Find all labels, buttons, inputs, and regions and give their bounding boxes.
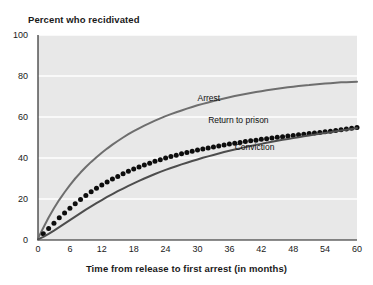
data-point xyxy=(46,226,51,231)
data-point xyxy=(94,186,99,191)
y-tick-label: 20 xyxy=(2,195,28,204)
y-tick-label: 60 xyxy=(2,113,28,122)
data-point xyxy=(184,150,189,155)
data-point xyxy=(73,201,78,206)
data-point xyxy=(195,148,200,153)
series-label-arrest: Arrest xyxy=(198,94,221,103)
data-point xyxy=(137,165,142,170)
x-tick-label: 6 xyxy=(58,245,82,254)
data-point xyxy=(57,215,62,220)
x-tick-label: 18 xyxy=(122,245,146,254)
x-tick-label: 36 xyxy=(217,245,241,254)
data-point xyxy=(158,157,163,162)
data-point xyxy=(216,143,221,148)
data-point xyxy=(142,162,147,167)
data-point xyxy=(206,145,211,150)
data-point xyxy=(67,206,72,211)
data-point xyxy=(280,134,285,139)
data-point xyxy=(152,159,157,164)
data-point xyxy=(200,146,205,151)
data-point xyxy=(83,193,88,198)
data-point xyxy=(227,142,232,147)
x-tick-label: 30 xyxy=(186,245,210,254)
y-tick-label: 100 xyxy=(2,31,28,40)
x-tick-label: 60 xyxy=(345,245,369,254)
data-point xyxy=(190,149,195,154)
data-point xyxy=(126,169,131,174)
data-point xyxy=(147,161,152,166)
data-point xyxy=(78,197,83,202)
recidivism-chart: Percent who recidivated 020406080100 061… xyxy=(0,0,373,285)
data-point xyxy=(110,177,115,182)
x-tick-label: 48 xyxy=(281,245,305,254)
data-point xyxy=(211,144,216,149)
data-point xyxy=(179,151,184,156)
data-point xyxy=(121,171,126,176)
x-tick-label: 12 xyxy=(90,245,114,254)
data-point xyxy=(264,136,269,141)
x-tick-label: 42 xyxy=(249,245,273,254)
series-label-conviction: Conviction xyxy=(235,143,275,152)
data-point xyxy=(222,142,227,147)
data-point xyxy=(51,221,56,226)
x-axis-title: Time from release to first arrest (in mo… xyxy=(0,263,373,274)
chart-plot-area xyxy=(0,0,373,285)
y-tick-label: 80 xyxy=(2,72,28,81)
series-label-return-to-prison: Return to prison xyxy=(208,116,268,125)
x-tick-label: 0 xyxy=(26,245,50,254)
data-point xyxy=(131,167,136,172)
data-point xyxy=(269,136,274,141)
data-point xyxy=(62,210,67,215)
data-point xyxy=(163,156,168,161)
data-point xyxy=(174,153,179,158)
data-point xyxy=(99,183,104,188)
x-tick-label: 24 xyxy=(154,245,178,254)
data-point xyxy=(105,179,110,184)
data-point xyxy=(275,135,280,140)
y-tick-label: 40 xyxy=(2,154,28,163)
y-tick-label: 0 xyxy=(2,236,28,245)
x-tick-label: 54 xyxy=(313,245,337,254)
data-point xyxy=(115,174,120,179)
data-point xyxy=(168,154,173,159)
data-point xyxy=(89,189,94,194)
